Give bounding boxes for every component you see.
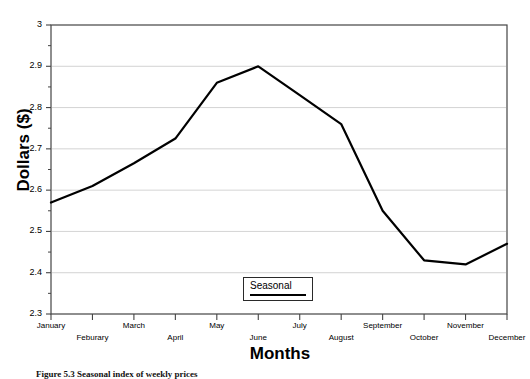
x-tick-label: Feburary — [61, 333, 123, 342]
legend-entry-label: Seasonal — [250, 280, 306, 291]
x-tick-label: January — [20, 321, 82, 330]
figure-caption: Figure 5.3 Seasonal index of weekly pric… — [36, 369, 198, 379]
x-tick-label: March — [103, 321, 165, 330]
figure: Dollars ($) Months 2.32.42.52.62.72.82.9… — [0, 0, 530, 379]
x-axis-ticks — [51, 314, 507, 320]
y-tick-label: 2.9 — [12, 60, 42, 70]
x-tick-label: August — [310, 333, 372, 342]
x-tick-label: June — [227, 333, 289, 342]
legend-line-swatch — [250, 294, 306, 296]
plot-frame — [51, 25, 507, 314]
x-tick-label: September — [352, 321, 414, 330]
y-tick-label: 2.5 — [12, 225, 42, 235]
y-tick-label: 2.3 — [12, 308, 42, 318]
x-tick-label: July — [269, 321, 331, 330]
x-tick-label: November — [435, 321, 497, 330]
y-tick-label: 2.7 — [12, 143, 42, 153]
y-tick-label: 2.4 — [12, 267, 42, 277]
y-tick-label: 2.6 — [12, 184, 42, 194]
x-tick-label: April — [144, 333, 206, 342]
chart-legend[interactable]: Seasonal — [243, 277, 313, 301]
gridlines — [52, 66, 506, 272]
y-tick-label: 2.8 — [12, 102, 42, 112]
x-tick-label: May — [186, 321, 248, 330]
x-tick-label: October — [393, 333, 455, 342]
x-tick-label: December — [476, 333, 530, 342]
series-line-seasonal — [51, 66, 507, 264]
y-tick-label: 3 — [12, 19, 42, 29]
